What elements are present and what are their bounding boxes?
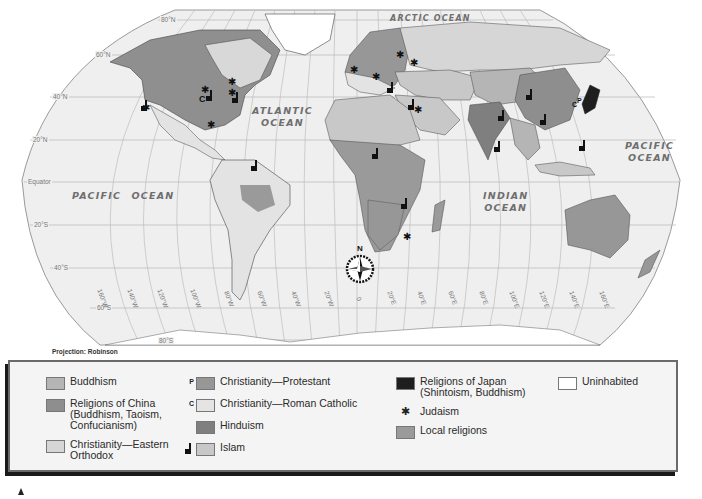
islam-mosque-symbol [401,204,407,209]
protestant-prefix: P [184,378,194,385]
indian-ocean-label: INDIAN OCEAN [483,190,528,214]
islam-mosque-symbol [498,116,504,121]
legend-label-line: Orthodox [70,450,169,461]
arctic-ocean-label: ARCTIC OCEAN [390,13,471,25]
lat-label-80s: 80°S [158,337,174,344]
legend-column-3: Religions of Japan (Shintoism, Buddhism)… [396,376,526,447]
islam-mosque-symbol [408,105,414,110]
protestant-marker: P [577,96,582,106]
legend-item-hinduism: Hinduism [196,420,357,434]
uninhabited-swatch [558,377,577,390]
legend-item-protestant: P Christianity—Protestant [196,376,357,390]
religions-of-japan-swatch [396,377,415,390]
judaism-symbol: ✱ [350,65,358,75]
lat-label-60n: 60°N [95,51,112,58]
legend-label: Religions of Japan (Shintoism, Buddhism) [420,376,526,398]
legend-label: Hinduism [220,420,264,431]
buddhism-swatch [46,377,65,390]
judaism-symbol: ✱ [207,120,215,130]
catholic-marker: C [199,94,206,104]
legend-label: Christianity—Protestant [220,376,330,387]
legend-column-2: P Christianity—Protestant C Christianity… [196,376,357,464]
legend-item-judaism: ✱ Judaism [396,406,526,417]
judaism-symbol: ✱ [403,232,411,242]
atlantic-line1: ATLANTIC [252,105,313,117]
judaism-symbol: ✱ [228,88,236,98]
judaism-symbol: ✱ [414,105,422,115]
judaism-symbol: ✱ [372,72,380,82]
world-religions-map: ARCTIC OCEAN ATLANTIC OCEAN PACIFIC OCEA… [0,0,702,355]
islam-mosque-symbol [372,154,378,159]
islam-swatch [196,443,215,456]
legend-item-religions-of-china: Religions of China (Buddhism, Taoism, Co… [46,398,169,431]
projection-label: Projection: Robinson [52,348,118,355]
legend-item-roman-catholic: C Christianity—Roman Catholic [196,398,357,412]
judaism-symbol: ✱ [410,58,418,68]
legend-label: Christianity—Eastern Orthodox [70,439,169,461]
legend-label-line: Confucianism) [70,420,162,431]
legend-column-4: Uninhabited [558,376,638,398]
pacific-ocean-east-label: PACIFIC OCEAN [625,140,674,164]
legend-label: Judaism [420,406,459,417]
star-of-david-icon: ✱ [396,406,415,417]
catholic-prefix: C [184,400,194,407]
islam-mosque-symbol [251,166,257,171]
legend-label: Religions of China (Buddhism, Taoism, Co… [70,398,162,431]
legend-label: Uninhabited [582,376,638,387]
lat-label-80n: 80°N [160,16,177,23]
protestant-swatch [196,377,215,390]
legend-label-line: (Shintoism, Buddhism) [420,387,526,398]
islam-mosque-symbol [232,98,238,103]
legend-column-1: Buddhism Religions of China (Buddhism, T… [46,376,169,469]
pacific-east-line2: OCEAN [625,152,674,164]
islam-mosque-symbol [579,146,585,151]
hinduism-swatch [196,421,215,434]
islam-mosque-symbol [540,120,546,125]
pacific-east-line1: PACIFIC [625,140,674,152]
mosque-icon [185,449,191,454]
roman-catholic-swatch [196,399,215,412]
map-legend: Buddhism Religions of China (Buddhism, T… [8,360,678,472]
legend-label: Local religions [420,425,487,436]
eastern-orthodox-swatch [46,440,65,453]
legend-item-islam: Islam [196,442,357,456]
legend-item-uninhabited: Uninhabited [558,376,638,390]
islam-mosque-symbol [387,88,393,93]
local-religions-swatch [396,426,415,439]
lat-label-40n: 40°N [52,93,69,100]
compass-rose-icon: N [343,243,377,287]
legend-item-local-religions: Local religions [396,425,526,439]
legend-item-eastern-orthodox: Christianity—Eastern Orthodox [46,439,169,461]
legend-item-buddhism: Buddhism [46,376,169,390]
legend-label: Christianity—Roman Catholic [220,398,357,409]
triangle-marker-icon [18,488,24,495]
indian-line1: INDIAN [483,190,528,202]
judaism-symbol: ✱ [228,77,236,87]
legend-item-religions-of-japan: Religions of Japan (Shintoism, Buddhism) [396,376,526,398]
islam-mosque-symbol [141,106,147,111]
lat-label-20n: 20°N [32,136,49,143]
religions-of-china-swatch [46,399,65,412]
islam-mosque-symbol [526,95,532,100]
islam-mosque-symbol [494,147,500,152]
lat-label-40s: 40°S [53,264,69,271]
svg-text:N: N [357,244,363,253]
legend-label: Islam [220,442,245,453]
indian-line2: OCEAN [483,202,528,214]
atlantic-ocean-label: ATLANTIC OCEAN [252,105,313,129]
islam-mosque-symbol [206,96,212,101]
atlantic-line2: OCEAN [252,117,313,129]
pacific-ocean-west-label: PACIFIC OCEAN [72,190,174,202]
legend-label: Buddhism [70,376,117,387]
lat-label-20s: 20°S [33,221,49,228]
lat-label-equator: Equator [27,178,52,185]
judaism-symbol: ✱ [396,50,404,60]
